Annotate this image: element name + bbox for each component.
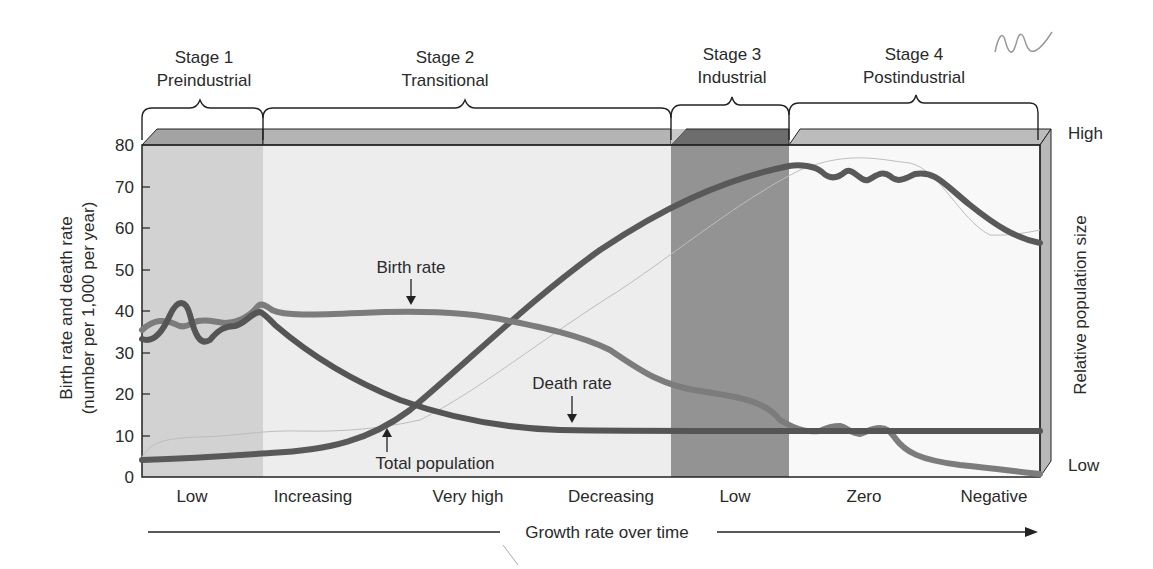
growth-rate-labels: Low Increasing Very high Decreasing Low … <box>176 487 1027 506</box>
top-band-stage4 <box>789 129 1051 145</box>
growth-label-stage1: Low <box>176 487 208 506</box>
growth-label-zero: Zero <box>847 487 882 506</box>
birth-rate-annotation: Birth rate <box>377 258 446 277</box>
death-rate-annotation: Death rate <box>532 374 611 393</box>
tick-10: 10 <box>115 427 134 446</box>
stage2-title: Stage 2 <box>416 48 475 67</box>
top-band-stage1 <box>142 129 263 145</box>
right-axis-high: High <box>1068 124 1103 143</box>
growth-label-increasing: Increasing <box>274 487 352 506</box>
stage2-shade <box>263 145 671 477</box>
x-axis-arrowhead <box>1025 527 1038 537</box>
stage4-subtitle: Postindustrial <box>863 68 965 87</box>
total-population-annotation: Total population <box>375 454 494 473</box>
tick-20: 20 <box>115 385 134 404</box>
stage1-shade <box>142 145 263 477</box>
right-axis-low: Low <box>1068 456 1100 475</box>
y-axis-title: Birth rate and death rate <box>57 216 76 399</box>
pen-stray-mark <box>503 545 518 565</box>
growth-label-negative: Negative <box>960 487 1027 506</box>
tick-50: 50 <box>115 261 134 280</box>
stage2-subtitle: Transitional <box>401 71 488 90</box>
stage3-title: Stage 3 <box>703 45 762 64</box>
stage1-title: Stage 1 <box>175 48 234 67</box>
y-axis-subtitle: (number per 1,000 per year) <box>79 202 98 415</box>
right-axis-title: Relative population size <box>1071 215 1090 395</box>
stage4-title: Stage 4 <box>885 45 944 64</box>
tick-40: 40 <box>115 302 134 321</box>
tick-80: 80 <box>115 136 134 155</box>
right-side-band <box>1040 129 1051 477</box>
stage3-shade <box>671 145 789 477</box>
top-band-stage3 <box>671 129 789 145</box>
stage1-subtitle: Preindustrial <box>157 71 252 90</box>
growth-label-very-high: Very high <box>433 487 504 506</box>
growth-label-stage3: Low <box>719 487 751 506</box>
top-band-stage2 <box>263 129 671 145</box>
tick-30: 30 <box>115 344 134 363</box>
growth-label-decreasing: Decreasing <box>568 487 654 506</box>
y-axis-tick-labels: 80 70 60 50 40 30 20 10 0 <box>115 136 134 487</box>
tick-70: 70 <box>115 178 134 197</box>
stage3-subtitle: Industrial <box>698 68 767 87</box>
tick-0: 0 <box>125 468 134 487</box>
x-axis-title: Growth rate over time <box>525 523 688 542</box>
handwritten-mark <box>995 32 1052 52</box>
tick-60: 60 <box>115 219 134 238</box>
demographic-transition-chart: Stage 1 Preindustrial Stage 2 Transition… <box>0 0 1153 569</box>
